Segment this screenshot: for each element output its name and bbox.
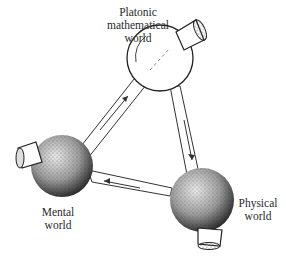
physical-sphere [170, 168, 234, 250]
label-line: mathematical [88, 19, 188, 32]
mental-sphere [16, 135, 93, 197]
edge-platonic-physical [170, 86, 200, 180]
label-line: Mental [28, 206, 88, 219]
edge-mental-platonic [78, 74, 150, 158]
physical-world-label: Physical world [232, 197, 284, 223]
label-line: Platonic [88, 6, 188, 19]
label-line: world [88, 32, 188, 45]
label-line: Physical [232, 197, 284, 210]
label-line: world [232, 210, 284, 223]
platonic-world-label: Platonic mathematical world [88, 6, 188, 45]
label-line: world [28, 219, 88, 232]
physical-stopper [198, 228, 222, 250]
edge-physical-mental [88, 170, 172, 196]
mental-world-label: Mental world [28, 206, 88, 232]
